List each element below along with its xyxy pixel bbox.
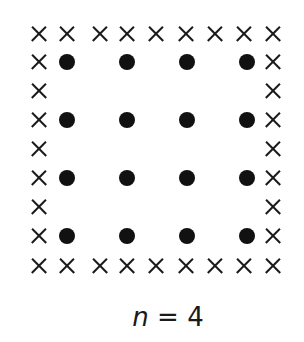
cross-mark-icon — [207, 26, 223, 42]
dot-icon — [179, 112, 195, 128]
cross-mark-icon — [31, 54, 47, 70]
dot-icon — [59, 228, 75, 244]
cross-mark-icon — [31, 26, 47, 42]
label-variable: n — [132, 302, 148, 332]
cross-mark-icon — [92, 26, 108, 42]
cross-mark-icon — [148, 258, 164, 274]
cross-mark-icon — [31, 258, 47, 274]
label-value: 4 — [187, 302, 204, 332]
cross-mark-icon — [265, 112, 281, 128]
cross-mark-icon — [31, 112, 47, 128]
cross-mark-icon — [265, 26, 281, 42]
cross-mark-icon — [59, 258, 75, 274]
dot-icon — [239, 228, 255, 244]
cross-mark-icon — [31, 141, 47, 157]
dot-icon — [239, 170, 255, 186]
cross-mark-icon — [236, 258, 252, 274]
cross-mark-icon — [265, 141, 281, 157]
cross-mark-icon — [31, 199, 47, 215]
cross-mark-icon — [178, 258, 194, 274]
cross-mark-icon — [119, 258, 135, 274]
cross-mark-icon — [148, 26, 164, 42]
dot-icon — [239, 54, 255, 70]
cross-mark-icon — [265, 228, 281, 244]
cross-mark-icon — [265, 54, 281, 70]
dot-icon — [119, 228, 135, 244]
cross-mark-icon — [178, 26, 194, 42]
cross-mark-icon — [265, 170, 281, 186]
figure-label: n = 4 — [132, 302, 203, 332]
label-equals: = — [157, 302, 179, 332]
cross-mark-icon — [31, 228, 47, 244]
cross-mark-icon — [265, 258, 281, 274]
dot-icon — [59, 112, 75, 128]
dot-icon — [179, 54, 195, 70]
dot-icon — [119, 112, 135, 128]
dot-icon — [59, 54, 75, 70]
cross-mark-icon — [59, 26, 75, 42]
dot-icon — [119, 54, 135, 70]
cross-mark-icon — [92, 258, 108, 274]
cross-mark-icon — [119, 26, 135, 42]
dot-icon — [239, 112, 255, 128]
dot-icon — [179, 228, 195, 244]
cross-mark-icon — [265, 199, 281, 215]
cross-mark-icon — [236, 26, 252, 42]
cross-mark-icon — [31, 83, 47, 99]
dot-icon — [59, 170, 75, 186]
cross-mark-icon — [265, 83, 281, 99]
dot-icon — [119, 170, 135, 186]
pattern-figure: n = 4 — [0, 0, 304, 342]
cross-mark-icon — [31, 170, 47, 186]
cross-mark-icon — [207, 258, 223, 274]
dot-icon — [179, 170, 195, 186]
